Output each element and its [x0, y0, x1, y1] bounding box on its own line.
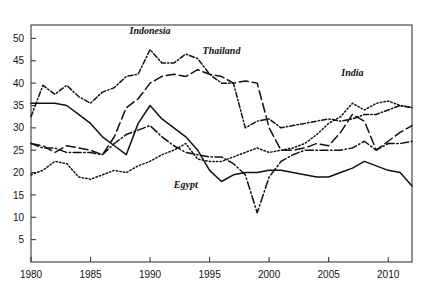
series-label-thailand: Thailand: [203, 45, 242, 56]
y-tick-label: 15: [13, 190, 25, 201]
y-tick-label: 10: [13, 212, 25, 223]
chart-figure: Percent GDP 5101520253035404550 19801985…: [0, 0, 427, 293]
chart-svg: 5101520253035404550 19801985199019952000…: [0, 0, 427, 293]
x-tick-label: 1985: [79, 269, 102, 280]
plot-area: 5101520253035404550 19801985199019952000…: [0, 0, 427, 293]
y-tick-label: 40: [13, 78, 25, 89]
x-tick-label: 1980: [20, 269, 43, 280]
y-tick-label: 50: [13, 33, 25, 44]
x-tick-label: 1990: [139, 269, 162, 280]
x-tick-label: 1995: [198, 269, 221, 280]
x-tick-label: 2010: [377, 269, 400, 280]
x-tick-label: 2005: [318, 269, 341, 280]
chart-background: [0, 0, 427, 293]
y-tick-label: 35: [13, 100, 25, 111]
series-label-india: India: [340, 67, 363, 78]
series-label-indonesia: Indonesia: [129, 25, 171, 36]
y-tick-label: 30: [13, 122, 25, 133]
series-label-egypt: Egypt: [173, 179, 199, 190]
x-tick-label: 2000: [258, 269, 281, 280]
y-tick-label: 5: [18, 234, 24, 245]
y-tick-label: 20: [13, 167, 25, 178]
y-tick-label: 25: [13, 145, 25, 156]
y-tick-label: 45: [13, 55, 25, 66]
